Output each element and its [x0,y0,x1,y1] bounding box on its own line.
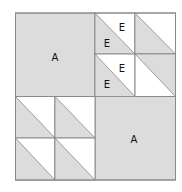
label-e-cell1-bottom: E [104,38,110,49]
quilt-block-diagram: A A E E E E [0,0,182,192]
hst-group-bottom-left [16,97,96,181]
label-a-top-left: A [52,52,59,63]
label-e-cell2-bottom: E [104,79,110,90]
label-a-bottom-right: A [131,134,138,145]
label-e-cell2-top: E [119,63,125,74]
label-e-cell1-top: E [119,22,125,33]
